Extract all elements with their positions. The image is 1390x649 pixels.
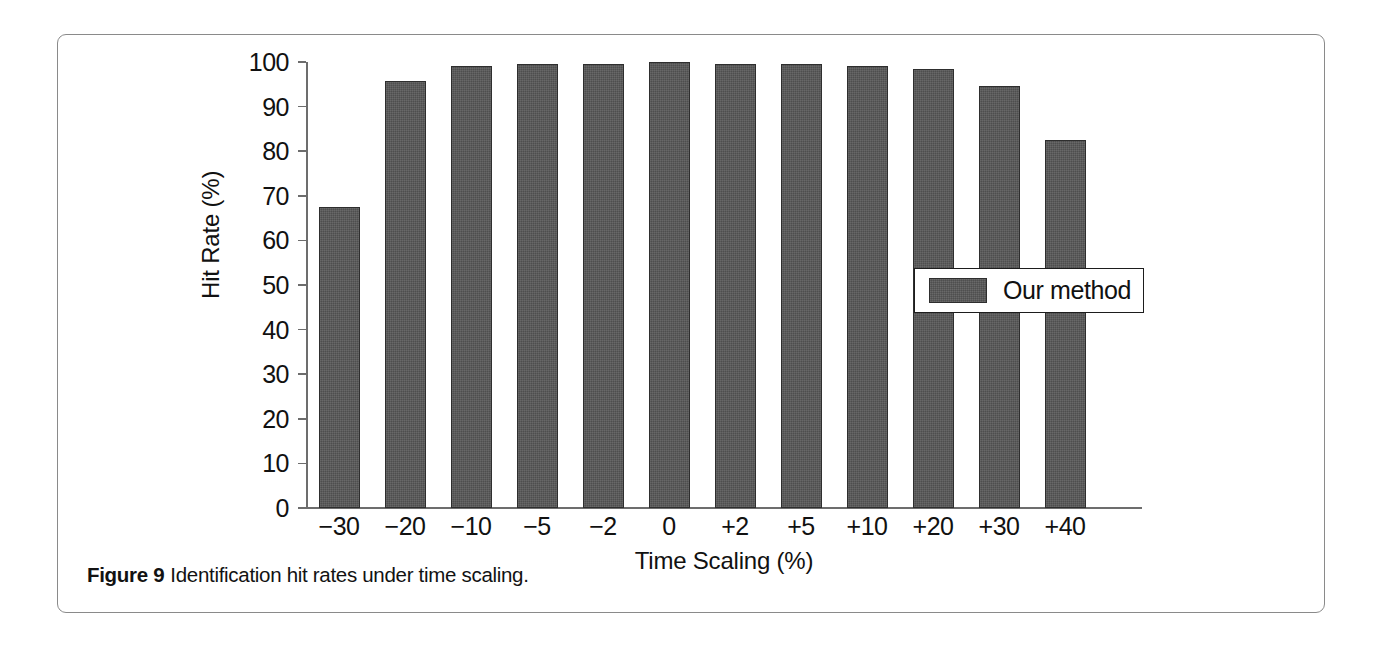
y-axis-tick: 60 [298,240,306,242]
legend-swatch-our-method [929,278,987,303]
bar-slot [636,62,702,508]
y-axis-tick: 10 [298,463,306,465]
y-axis-tick-label: 90 [262,94,289,119]
x-axis-tick-label: −10 [438,514,504,539]
chart-plot-area: Hit Rate (%) 0102030405060708090100 −30−… [58,35,1326,535]
x-axis-tick-label: +2 [702,514,768,539]
bar-slot [834,62,900,508]
x-axis-tick-label: −2 [570,514,636,539]
y-axis-tick-label: 10 [262,451,289,476]
bar-slot [306,62,372,508]
y-axis-tick-label: 80 [262,139,289,164]
x-axis-tick-label: 0 [636,514,702,539]
bar [451,66,492,508]
bar [517,64,558,508]
x-axis-tick-label: +40 [1032,514,1098,539]
figure-card: Hit Rate (%) 0102030405060708090100 −30−… [57,34,1325,613]
y-axis-tick-label: 0 [276,496,289,521]
x-axis-tick-label: −30 [306,514,372,539]
chart-legend: Our method [914,268,1144,313]
y-axis-tick-label: 30 [262,362,289,387]
y-axis-tick-label: 70 [262,183,289,208]
x-axis-tick-label: +30 [966,514,1032,539]
y-axis-tick-label: 100 [249,50,289,75]
y-axis-tick: 80 [298,150,306,152]
figure-caption: Figure 9Identification hit rates under t… [87,563,529,587]
y-axis-tick-label: 50 [262,273,289,298]
figure-caption-text: Identification hit rates under time scal… [170,563,528,586]
y-axis-title: Hit Rate (%) [197,171,225,299]
bar [1045,140,1086,508]
y-axis-tick: 40 [298,329,306,331]
bar-slot [570,62,636,508]
bar-slot [504,62,570,508]
x-axis-tick-label: +10 [834,514,900,539]
y-axis-tick-label: 40 [262,317,289,342]
bar-slot [702,62,768,508]
y-axis-tick: 100 [298,61,306,63]
y-axis-tick: 0 [298,507,306,509]
bar [649,62,690,508]
x-axis-tick-label: −5 [504,514,570,539]
bar-slot [438,62,504,508]
figure-caption-label: Figure 9 [87,563,164,586]
x-axis-tick-label: +5 [768,514,834,539]
bar [385,81,426,508]
y-axis-tick: 20 [298,418,306,420]
bar [715,64,756,508]
bar [781,64,822,508]
y-axis-tick-label: 60 [262,228,289,253]
y-axis-tick-label: 20 [262,406,289,431]
y-axis-tick: 70 [298,195,306,197]
y-axis-tick: 50 [298,284,306,286]
x-axis-tick-label: −20 [372,514,438,539]
bar-slot [768,62,834,508]
bar [319,207,360,508]
bar [583,64,624,508]
y-axis-tick: 90 [298,106,306,108]
legend-label-our-method: Our method [1003,276,1131,305]
y-axis-tick: 30 [298,373,306,375]
bar-slot [372,62,438,508]
x-axis-tick-label: +20 [900,514,966,539]
bar [847,66,888,508]
